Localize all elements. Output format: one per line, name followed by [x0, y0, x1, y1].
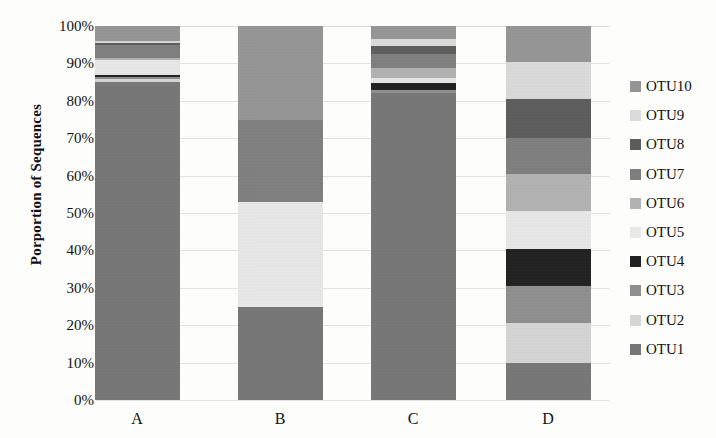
bar-segment-otu5[interactable] [238, 202, 323, 307]
legend-swatch-icon [630, 81, 641, 92]
bar-segment-otu10[interactable] [95, 26, 180, 41]
bar-a[interactable] [95, 26, 180, 400]
legend-item-otu1[interactable]: OTU1 [630, 335, 716, 364]
bar-segment-otu4[interactable] [371, 83, 456, 90]
bar-segment-otu10[interactable] [506, 26, 591, 62]
bar-segment-otu2[interactable] [506, 323, 591, 362]
bar-segment-otu4[interactable] [95, 75, 180, 77]
y-axis-tick-label: 20% [36, 317, 94, 334]
bar-segment-otu7[interactable] [238, 120, 323, 202]
y-axis-tick-label: 80% [36, 92, 94, 109]
y-axis-tick-label: 90% [36, 55, 94, 72]
x-axis-tick-label-c: C [353, 410, 473, 428]
legend-item-otu7[interactable]: OTU7 [630, 160, 716, 189]
y-axis-tick-label: 10% [36, 354, 94, 371]
legend-item-otu3[interactable]: OTU3 [630, 276, 716, 305]
y-axis-tick-label: 50% [36, 205, 94, 222]
y-axis-tick-label: 40% [36, 242, 94, 259]
bar-segment-otu8[interactable] [371, 46, 456, 55]
bar-segment-otu1[interactable] [95, 82, 180, 400]
legend-swatch-icon [630, 256, 641, 267]
legend-swatch-icon [630, 344, 641, 355]
legend-swatch-icon [630, 227, 641, 238]
bar-segment-otu1[interactable] [506, 363, 591, 400]
bar-segment-otu6[interactable] [371, 68, 456, 78]
bar-segment-otu8[interactable] [506, 99, 591, 138]
plot-area [96, 26, 610, 400]
bar-segment-otu7[interactable] [506, 138, 591, 174]
legend-item-label: OTU7 [646, 166, 684, 183]
y-axis-tick-label: 30% [36, 279, 94, 296]
bar-segment-otu2[interactable] [95, 79, 180, 82]
bar-b[interactable] [238, 26, 323, 400]
bar-segment-otu3[interactable] [506, 286, 591, 323]
bar-segment-otu1[interactable] [238, 307, 323, 401]
legend-swatch-icon [630, 315, 641, 326]
y-axis-tick-label: 100% [36, 18, 94, 35]
bar-segment-otu5[interactable] [95, 60, 180, 74]
bar-d[interactable] [506, 26, 591, 400]
gridline [96, 400, 610, 401]
y-axis-tick-label: 70% [36, 130, 94, 147]
bar-segment-otu5[interactable] [506, 211, 591, 248]
legend-item-label: OTU4 [646, 253, 684, 270]
bar-segment-otu5[interactable] [371, 78, 456, 83]
bar-segment-otu1[interactable] [371, 93, 456, 400]
bar-segment-otu7[interactable] [95, 45, 180, 58]
bar-segment-otu6[interactable] [95, 58, 180, 60]
legend-item-otu8[interactable]: OTU8 [630, 130, 716, 159]
legend-item-label: OTU6 [646, 195, 684, 212]
legend: OTU10OTU9OTU8OTU7OTU6OTU5OTU4OTU3OTU2OTU… [630, 72, 716, 364]
stacked-bar-chart-figure: Porportion of Sequences 100%90%80%70%60%… [0, 0, 716, 438]
legend-item-label: OTU1 [646, 341, 684, 358]
bar-segment-otu8[interactable] [95, 43, 180, 45]
bar-segment-otu3[interactable] [95, 77, 180, 80]
legend-swatch-icon [630, 139, 641, 150]
bar-segment-otu9[interactable] [371, 39, 456, 46]
legend-item-otu4[interactable]: OTU4 [630, 247, 716, 276]
legend-item-otu9[interactable]: OTU9 [630, 101, 716, 130]
legend-item-otu10[interactable]: OTU10 [630, 72, 716, 101]
legend-item-label: OTU5 [646, 224, 684, 241]
y-axis-tick-label: 0% [36, 392, 94, 409]
bar-segment-otu6[interactable] [506, 174, 591, 211]
bar-segment-otu7[interactable] [371, 54, 456, 67]
legend-item-otu6[interactable]: OTU6 [630, 189, 716, 218]
bar-segment-otu3[interactable] [371, 90, 456, 93]
legend-item-label: OTU2 [646, 312, 684, 329]
bar-segment-otu4[interactable] [506, 249, 591, 286]
legend-item-label: OTU10 [646, 78, 692, 95]
legend-swatch-icon [630, 169, 641, 180]
bar-segment-otu9[interactable] [95, 41, 180, 43]
legend-swatch-icon [630, 285, 641, 296]
legend-item-otu2[interactable]: OTU2 [630, 306, 716, 335]
legend-item-label: OTU8 [646, 136, 684, 153]
bar-c[interactable] [371, 26, 456, 400]
legend-item-otu5[interactable]: OTU5 [630, 218, 716, 247]
y-axis-tick-label: 60% [36, 167, 94, 184]
x-axis-tick-label-d: D [488, 410, 608, 428]
bar-segment-otu10[interactable] [371, 26, 456, 39]
legend-item-label: OTU9 [646, 107, 684, 124]
x-axis-tick-label-b: B [220, 410, 340, 428]
legend-swatch-icon [630, 198, 641, 209]
bar-segment-otu9[interactable] [506, 62, 591, 99]
legend-swatch-icon [630, 110, 641, 121]
legend-item-label: OTU3 [646, 282, 684, 299]
bar-segment-otu10[interactable] [238, 26, 323, 120]
x-axis-tick-label-a: A [77, 410, 197, 428]
